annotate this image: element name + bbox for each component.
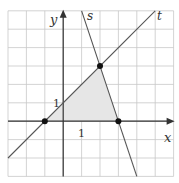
point-marker bbox=[97, 63, 103, 69]
y-axis-label: y bbox=[49, 12, 58, 27]
point-marker bbox=[42, 118, 48, 124]
point-marker bbox=[115, 118, 121, 124]
coordinate-plane: y x s t 1 1 bbox=[0, 0, 179, 183]
y-unit-tick-label: 1 bbox=[53, 97, 60, 110]
line-s-label: s bbox=[87, 9, 93, 23]
line-t-label: t bbox=[157, 9, 162, 23]
x-axis-label: x bbox=[164, 130, 172, 145]
x-unit-tick-label: 1 bbox=[78, 127, 85, 140]
